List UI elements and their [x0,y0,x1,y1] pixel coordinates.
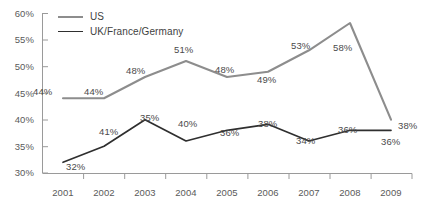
legend-line-swatch-uk-france-germany-icon [58,31,83,32]
y-axis-label-55: 55% [0,34,34,45]
x-axis-label-2007: 2007 [288,187,330,198]
y-axis-label-30: 30% [0,167,34,178]
y-axis-label-50: 50% [0,61,34,72]
y-axis-label-35: 35% [0,141,34,152]
x-axis-label-2006: 2006 [247,187,289,198]
data-label-uk-2004: 40% [178,118,197,129]
data-label-us-2005: 48% [215,64,234,75]
data-label-us-2007: 53% [291,40,310,51]
y-axis-label-60: 60% [0,8,34,19]
data-label-us-2004: 51% [174,44,193,55]
x-axis-label-2008: 2008 [329,187,371,198]
legend-label-uk-france-germany: UK/France/Germany [90,26,183,37]
y-axis-label-45: 45% [0,88,34,99]
x-axis-label-2004: 2004 [165,187,207,198]
chart-legend: US UK/France/Germany [58,9,183,39]
data-label-uk-2001: 32% [66,161,85,172]
data-label-uk-2002: 41% [99,126,118,137]
legend-item-uk-france-germany: UK/France/Germany [58,24,183,39]
data-label-uk-2009: 36% [381,136,400,147]
legend-item-us: US [58,9,183,24]
data-label-uk-2003: 35% [140,112,159,123]
y-axis-label-40: 40% [0,114,34,125]
data-label-us-2001: 44% [33,86,52,97]
x-axis-ticks [84,174,412,180]
data-label-us-2003: 48% [126,65,145,76]
data-label-us-2008: 58% [333,42,352,53]
x-axis-label-2005: 2005 [206,187,248,198]
data-label-uk-2006: 38% [258,118,277,129]
x-axis-label-2002: 2002 [83,187,125,198]
data-label-us-2009: 38% [398,120,417,131]
x-axis-label-2001: 2001 [42,187,84,198]
x-axis-label-2003: 2003 [124,187,166,198]
legend-line-swatch-us-icon [58,16,83,18]
data-label-us-2006: 49% [257,74,276,85]
data-label-uk-2008: 36% [338,124,357,135]
data-label-uk-2007: 34% [296,135,315,146]
legend-label-us: US [90,11,104,22]
data-label-us-2002: 44% [84,86,103,97]
data-label-uk-2005: 36% [220,127,239,138]
line-chart: 60% 55% 50% 45% 40% 35% 30% 2001 2002 20… [0,0,427,204]
x-axis-label-2009: 2009 [370,187,412,198]
